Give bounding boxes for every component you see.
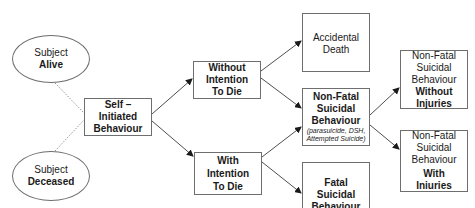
with-injuries-line1: Non-Fatal bbox=[412, 130, 456, 142]
with-injuries-line2: Suicidal bbox=[416, 142, 451, 154]
dotted-line-deceased bbox=[55, 120, 84, 151]
self-initiated-line3: Behaviour bbox=[94, 123, 143, 135]
non-fatal-note2: Attempted Suicide) bbox=[306, 135, 365, 143]
without-injuries-line3: Behaviour bbox=[411, 74, 456, 86]
subject-deceased-line2: Deceased bbox=[28, 176, 75, 188]
node-with-intention: With Intention To Die bbox=[194, 152, 262, 195]
subject-deceased-line1: Subject bbox=[34, 164, 67, 176]
non-fatal-line1: Non-Fatal bbox=[313, 91, 359, 103]
without-injuries-line5: Injuries bbox=[416, 98, 452, 110]
fatal-line1: Fatal bbox=[324, 177, 347, 189]
node-non-fatal-suicidal-behaviour: Non-Fatal Suicidal Behaviour (parasuicid… bbox=[302, 88, 370, 146]
with-injuries-line3: Behaviour bbox=[411, 154, 456, 166]
arrow-self-to-with bbox=[152, 121, 193, 156]
arrow-self-to-without bbox=[152, 79, 192, 114]
node-subject-deceased: Subject Deceased bbox=[12, 151, 90, 201]
without-intention-line3: To Die bbox=[212, 86, 242, 98]
without-intention-line2: Intention bbox=[206, 74, 248, 86]
self-initiated-line2: Initiated bbox=[99, 111, 137, 123]
node-subject-alive: Subject Alive bbox=[12, 35, 90, 83]
arrow-with-to-nonfatal bbox=[262, 127, 301, 157]
accidental-death-line2: Death bbox=[323, 44, 350, 56]
self-initiated-line1: Self – bbox=[105, 99, 132, 111]
node-without-intention: Without Intention To Die bbox=[193, 61, 261, 99]
arrow-with-to-fatal bbox=[262, 162, 301, 193]
without-injuries-line4: Without bbox=[415, 86, 452, 98]
with-intention-line1: With bbox=[217, 154, 239, 167]
with-intention-line2: Intention bbox=[207, 167, 249, 180]
accidental-death-line1: Accidental bbox=[313, 32, 359, 44]
arrow-nonfatal-to-with-injuries bbox=[370, 125, 399, 149]
fatal-line3: Behaviour bbox=[312, 201, 361, 208]
subject-alive-line2: Alive bbox=[39, 59, 63, 71]
dotted-line-alive bbox=[55, 83, 84, 113]
subject-alive-line1: Subject bbox=[34, 47, 67, 59]
node-non-fatal-with-injuries: Non-Fatal Suicidal Behaviour With Iniuri… bbox=[400, 130, 468, 192]
non-fatal-note1: (parasuicide, DSH, bbox=[307, 127, 366, 135]
with-injuries-line5: Iniuries bbox=[416, 180, 452, 192]
arrow-without-to-accidental bbox=[261, 41, 301, 71]
with-injuries-line4: With bbox=[423, 168, 445, 180]
node-non-fatal-without-injuries: Non-Fatal Suicidal Behaviour Without Inj… bbox=[400, 50, 468, 109]
node-fatal-suicidal-behaviour: Fatal Suicidal Behaviour bbox=[302, 162, 370, 208]
without-injuries-line1: Non-Fatal bbox=[412, 50, 456, 62]
without-injuries-line2: Suicidal bbox=[416, 62, 451, 74]
node-accidental-death: Accidental Death bbox=[302, 13, 370, 72]
non-fatal-line3: Behaviour bbox=[312, 115, 361, 127]
without-intention-line1: Without bbox=[208, 62, 245, 74]
fatal-line2: Suicidal bbox=[317, 189, 355, 201]
arrow-without-to-nonfatal bbox=[261, 78, 301, 108]
non-fatal-line2: Suicidal bbox=[317, 103, 355, 115]
node-self-initiated-behaviour: Self – Initiated Behaviour bbox=[84, 98, 152, 136]
with-intention-line3: To Die bbox=[213, 180, 243, 193]
arrow-nonfatal-to-without-injuries bbox=[370, 88, 399, 115]
